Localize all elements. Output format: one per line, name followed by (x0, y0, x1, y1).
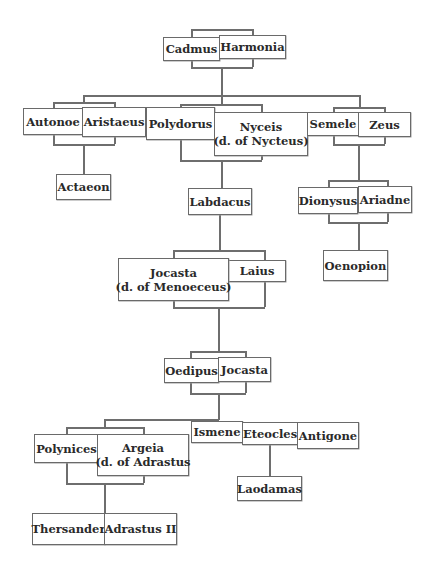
node-label: Laius (240, 264, 275, 278)
node-note: (d. of Menoeceus) (115, 280, 231, 294)
connector-line (328, 180, 388, 182)
connector-line (218, 393, 220, 420)
node-ariadne: Ariadne (358, 186, 412, 213)
node-laius: Laius (228, 260, 286, 282)
node-label: Polydorus (149, 117, 213, 131)
connector-line (333, 107, 385, 109)
node-label: Nyceis (240, 120, 282, 134)
node-label: Ariadne (360, 193, 411, 207)
connector-line (104, 419, 106, 427)
node-label: Semele (310, 117, 357, 131)
node-jocasta-menoeceus: Jocasta (d. of Menoeceus) (118, 258, 229, 301)
connector-line (221, 160, 223, 188)
node-label: Polynices (36, 442, 97, 456)
node-label: Jocasta (221, 363, 268, 377)
node-label: Antigone (299, 429, 357, 443)
node-actaeon: Actaeon (56, 174, 111, 200)
connector-line (191, 29, 253, 31)
node-polydorus: Polydorus (146, 107, 215, 140)
node-label: Adrastus II (105, 522, 177, 536)
connector-line (173, 250, 265, 252)
node-label: Ismene (193, 425, 240, 439)
node-eteocles: Eteocles (242, 422, 298, 445)
node-harmonia: Harmonia (219, 35, 286, 59)
node-antigone: Antigone (297, 422, 359, 449)
node-polynices: Polynices (34, 434, 99, 463)
node-laodamas: Laodamas (237, 476, 302, 501)
connector-line (358, 144, 360, 180)
connector-line (221, 67, 223, 96)
node-label: Harmonia (220, 40, 284, 54)
node-labdacus: Labdacus (188, 188, 252, 215)
node-label: Oenopion (325, 259, 387, 273)
node-zeus: Zeus (358, 112, 411, 137)
node-label: Oedipus (165, 364, 218, 378)
node-jocasta: Jocasta (218, 357, 271, 382)
node-dionysus: Dionysus (298, 187, 358, 214)
node-label: Labdacus (190, 195, 251, 209)
connector-line (219, 214, 221, 250)
node-autonoe: Autonoe (23, 108, 83, 135)
node-argeia: Argeia (d. of Adrastus (97, 434, 189, 476)
node-cadmus: Cadmus (163, 37, 220, 61)
connector-line (190, 351, 246, 353)
node-aristaeus: Aristaeus (82, 107, 146, 137)
node-label: Aristaeus (84, 115, 145, 129)
connector-line (66, 427, 144, 429)
node-ismene: Ismene (191, 421, 243, 443)
connector-line (83, 144, 85, 174)
connector-line (53, 102, 115, 104)
node-label: Laodamas (237, 482, 302, 496)
node-thersander: Thersander (32, 513, 105, 545)
node-semele: Semele (307, 112, 359, 136)
node-label: Zeus (369, 118, 400, 132)
node-label: Thersander (32, 522, 106, 536)
connector-line (358, 222, 360, 250)
node-label: Jocasta (150, 266, 197, 280)
connector-line (180, 104, 262, 106)
node-label: Actaeon (57, 180, 109, 194)
node-label: Autonoe (26, 115, 80, 129)
node-oenopion: Oenopion (323, 250, 388, 281)
node-note: (d. of Nycteus) (213, 134, 308, 148)
node-nyceis: Nyceis (d. of Nycteus) (214, 112, 308, 156)
node-oedipus: Oedipus (164, 358, 219, 383)
node-note: (d. of Adrastus (95, 455, 190, 469)
connector-line (218, 307, 220, 351)
node-label: Eteocles (243, 427, 297, 441)
node-label: Dionysus (299, 194, 357, 208)
node-label: Argeia (122, 441, 164, 455)
family-tree-diagram: Cadmus Harmonia Autonoe Aristaeus Polydo… (0, 0, 439, 575)
node-adrastus-ii: Adrastus II (104, 513, 177, 545)
connector-line (269, 444, 271, 476)
node-label: Cadmus (166, 42, 218, 56)
